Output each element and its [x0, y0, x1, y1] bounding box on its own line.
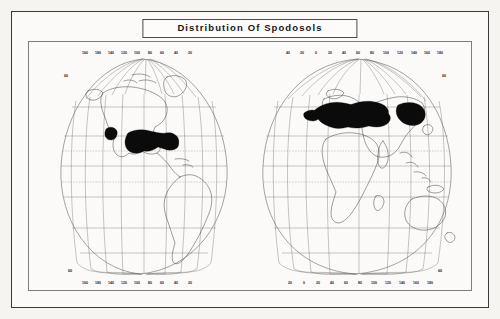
spodosol-region-eastern-siberia — [396, 103, 425, 126]
svg-text:40: 40 — [174, 51, 178, 55]
svg-text:180: 180 — [427, 281, 433, 285]
west-longitude-labels-bottom: 160 180 140 120 100 80 60 40 20 — [82, 281, 192, 285]
svg-text:120: 120 — [385, 281, 391, 285]
svg-text:60: 60 — [442, 74, 446, 78]
west-hemisphere-outline-right — [140, 59, 227, 274]
svg-text:140: 140 — [108, 281, 114, 285]
svg-text:180: 180 — [95, 281, 101, 285]
west-meridians — [71, 94, 217, 274]
svg-text:60: 60 — [356, 51, 360, 55]
east-longitude-labels-top: 40 20 0 20 40 60 80 100 120 140 160 180 — [286, 51, 443, 55]
coast-greenland — [164, 76, 187, 97]
coast-new-zealand — [445, 232, 455, 242]
coast-central-america — [157, 153, 180, 177]
west-longitude-labels-top: 160 180 140 120 100 80 60 40 20 — [82, 51, 192, 55]
svg-text:140: 140 — [411, 51, 417, 55]
svg-text:100: 100 — [134, 51, 140, 55]
svg-text:180: 180 — [437, 51, 443, 55]
east-longitude-labels-bottom: 20 0 20 40 60 80 100 120 140 160 180 — [288, 281, 433, 285]
svg-text:160: 160 — [82, 281, 88, 285]
svg-text:160: 160 — [424, 51, 430, 55]
map-title-box: Distribution Of Spodosols — [142, 19, 357, 38]
east-hemisphere-outline — [263, 59, 358, 274]
west-latitude-labels: 60 60 — [64, 74, 72, 273]
east-hemisphere-outline-right — [355, 59, 451, 274]
spodosol-region-west-siberia-west — [304, 110, 320, 121]
svg-text:120: 120 — [397, 51, 403, 55]
coast-africa — [322, 133, 379, 223]
svg-text:60: 60 — [344, 281, 348, 285]
svg-text:80: 80 — [148, 51, 152, 55]
svg-text:160: 160 — [82, 51, 88, 55]
svg-text:100: 100 — [134, 281, 140, 285]
svg-text:100: 100 — [383, 51, 389, 55]
svg-text:60: 60 — [160, 281, 164, 285]
svg-text:20: 20 — [316, 281, 320, 285]
svg-text:80: 80 — [370, 51, 374, 55]
east-bottom-meridians — [279, 263, 438, 275]
svg-text:120: 120 — [121, 51, 127, 55]
svg-text:60: 60 — [160, 51, 164, 55]
east-top-meridians — [288, 59, 426, 101]
svg-text:60: 60 — [68, 269, 72, 273]
coast-southeast-asia — [400, 152, 431, 182]
coast-arctic-islands — [124, 74, 156, 83]
svg-text:160: 160 — [413, 281, 419, 285]
svg-text:100: 100 — [371, 281, 377, 285]
world-map: 160 180 140 120 100 80 60 40 20 160 180 … — [28, 41, 472, 291]
svg-text:120: 120 — [121, 281, 127, 285]
svg-text:60: 60 — [64, 74, 68, 78]
svg-text:0: 0 — [303, 281, 305, 285]
svg-text:80: 80 — [148, 281, 152, 285]
east-latitude-labels: 60 60 — [438, 74, 446, 273]
coast-alaska — [86, 89, 103, 100]
svg-text:60: 60 — [438, 269, 442, 273]
svg-text:20: 20 — [288, 281, 292, 285]
svg-text:40: 40 — [286, 51, 290, 55]
svg-text:20: 20 — [188, 281, 192, 285]
eastern-hemisphere: 40 20 0 20 40 60 80 100 120 140 160 180 … — [263, 51, 455, 285]
page-canvas: Distribution Of Spodosols — [0, 0, 500, 319]
svg-text:20: 20 — [300, 51, 304, 55]
spodosol-region-alaska-patch — [105, 127, 117, 140]
svg-text:180: 180 — [95, 51, 101, 55]
svg-text:140: 140 — [399, 281, 405, 285]
coast-south-america — [164, 175, 212, 264]
map-area: 160 180 140 120 100 80 60 40 20 160 180 … — [28, 41, 472, 291]
svg-text:0: 0 — [315, 51, 317, 55]
west-top-meridians — [86, 59, 196, 99]
coast-madagascar — [374, 195, 384, 210]
western-hemisphere: 160 180 140 120 100 80 60 40 20 160 180 … — [61, 51, 227, 285]
svg-text:80: 80 — [358, 281, 362, 285]
svg-text:40: 40 — [342, 51, 346, 55]
west-hemisphere-outline — [61, 59, 143, 274]
svg-text:20: 20 — [328, 51, 332, 55]
svg-text:20: 20 — [188, 51, 192, 55]
page-title: Distribution Of Spodosols — [177, 23, 322, 33]
svg-text:40: 40 — [330, 281, 334, 285]
coast-caribbean — [175, 159, 193, 167]
svg-text:140: 140 — [108, 51, 114, 55]
east-tropics — [264, 151, 450, 182]
coast-scandinavia — [326, 89, 344, 99]
svg-text:40: 40 — [174, 281, 178, 285]
